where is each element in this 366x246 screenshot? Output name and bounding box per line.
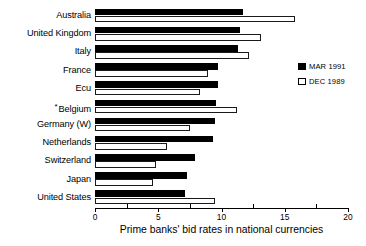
bar-group: Switzerland [95, 153, 348, 169]
bar-mar-1991 [95, 154, 195, 161]
x-axis-tick-label: 10 [217, 212, 226, 222]
bar-group: *Belgium [95, 99, 348, 115]
bar-mar-1991 [95, 81, 218, 88]
bar-group: Australia [95, 8, 348, 24]
plot-area: AustraliaUnited KingdomItalyFranceEcu*Be… [95, 8, 348, 208]
legend-swatch-filled-black-square [298, 63, 306, 71]
category-label: Italy [75, 44, 91, 60]
x-axis-minor-tick [253, 204, 254, 208]
x-axis-tick-label: 0 [93, 212, 98, 222]
bar-group: Netherlands [95, 135, 348, 151]
bar-mar-1991 [95, 100, 216, 107]
bar-mar-1991 [95, 63, 218, 70]
chart-legend: MAR 1991 DEC 1989 [298, 61, 346, 91]
category-label: Netherlands [43, 135, 91, 151]
footnote-marker: * [54, 102, 57, 111]
category-label: United States [37, 190, 91, 206]
legend-label: DEC 1989 [309, 77, 345, 86]
x-axis-title: Prime banks' bid rates in national curre… [95, 224, 348, 235]
bar-mar-1991 [95, 9, 243, 16]
bar-dec-1989 [95, 107, 237, 114]
legend-swatch-open-white-square [298, 78, 306, 86]
bar-dec-1989 [95, 161, 156, 168]
x-axis-tick-label: 20 [343, 212, 352, 222]
x-axis-minor-tick [127, 204, 128, 208]
bar-dec-1989 [95, 198, 215, 205]
bar-group: Germany (W) [95, 117, 348, 133]
bar-dec-1989 [95, 52, 249, 59]
bar-group: United States [95, 190, 348, 206]
bar-group: Italy [95, 44, 348, 60]
category-label: Germany (W) [37, 117, 91, 133]
category-label: Switzerland [45, 153, 91, 169]
bar-mar-1991 [95, 45, 238, 52]
bar-group: Japan [95, 172, 348, 188]
bar-dec-1989 [95, 16, 295, 23]
x-axis-minor-tick [316, 204, 317, 208]
bar-dec-1989 [95, 70, 208, 77]
bar-mar-1991 [95, 172, 187, 179]
bar-dec-1989 [95, 89, 200, 96]
category-label: Ecu [75, 81, 91, 97]
x-axis-minor-tick [190, 204, 191, 208]
category-label: Australia [56, 8, 91, 24]
bar-group: United Kingdom [95, 26, 348, 42]
category-label: France [63, 63, 91, 79]
bar-dec-1989 [95, 125, 190, 132]
bar-dec-1989 [95, 34, 261, 41]
legend-item-mar-1991: MAR 1991 [298, 61, 346, 72]
category-label: United Kingdom [27, 26, 91, 42]
bar-mar-1991 [95, 27, 240, 34]
legend-label: MAR 1991 [309, 62, 346, 71]
bar-mar-1991 [95, 190, 185, 197]
bar-dec-1989 [95, 179, 153, 186]
legend-item-dec-1989: DEC 1989 [298, 76, 346, 87]
bar-dec-1989 [95, 143, 167, 150]
x-axis-tick-label: 5 [156, 212, 161, 222]
category-label: Japan [66, 172, 91, 188]
x-axis-tick-label: 15 [280, 212, 289, 222]
bar-mar-1991 [95, 136, 213, 143]
category-label: *Belgium [54, 99, 91, 115]
bar-mar-1991 [95, 118, 215, 125]
bar-chart: AustraliaUnited KingdomItalyFranceEcu*Be… [0, 0, 366, 246]
